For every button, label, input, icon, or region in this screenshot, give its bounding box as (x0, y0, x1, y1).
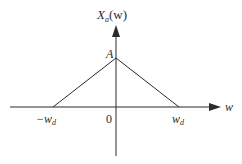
x-axis-arrowhead (209, 103, 221, 111)
spectrum-diagram: Xa(w) A w 0 −wd wd (0, 0, 242, 164)
y-axis-label: Xa(w) (96, 7, 127, 24)
y-axis-arrowhead (112, 25, 120, 37)
x-axis-label: w (225, 100, 233, 114)
right-tick-label: wd (172, 112, 185, 127)
peak-label: A (105, 47, 114, 61)
left-tick-label: −wd (36, 112, 57, 127)
origin-label: 0 (106, 112, 112, 126)
